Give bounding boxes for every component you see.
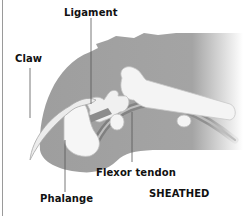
claw-anatomy-diagram: Ligament Claw Flexor tendon Phalange SHE…	[0, 0, 243, 216]
label-ligament: Ligament	[64, 8, 118, 18]
label-phalange: Phalange	[40, 194, 93, 204]
label-state-sheathed: SHEATHED	[149, 189, 210, 199]
label-claw: Claw	[15, 54, 42, 64]
label-flexor-tendon: Flexor tendon	[96, 168, 176, 178]
anatomy-illustration	[0, 0, 243, 216]
sesamoid-bone	[110, 114, 124, 130]
tendon-pulley-bone	[177, 115, 191, 127]
